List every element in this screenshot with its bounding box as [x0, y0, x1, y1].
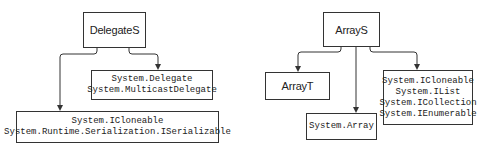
arrays-root-box: ArrayS — [323, 12, 380, 47]
type-label: System.Runtime.Serialization.ISerializab… — [4, 127, 231, 138]
type-label: System.ICloneable — [72, 116, 164, 127]
diagram-canvas: DelegateS System.Delegate System.Multica… — [0, 0, 495, 150]
arrayt-box: ArrayT — [265, 72, 330, 100]
arrow-arrays-to-arrayt — [298, 47, 341, 67]
delegates-root-box: DelegateS — [83, 12, 146, 48]
type-label: System.ICollection — [379, 98, 476, 109]
type-label: System.Array — [309, 121, 374, 132]
arrayt-label: ArrayT — [282, 80, 314, 92]
arrow-arrays-to-interfaces — [370, 47, 417, 65]
array-interfaces-box: System.ICloneable System.IList System.IC… — [383, 70, 473, 125]
arrays-root-label: ArrayS — [335, 24, 367, 36]
type-label: System.ICloneable — [382, 76, 474, 87]
type-label: System.MulticastDelegate — [87, 85, 217, 96]
type-label: System.IEnumerable — [379, 109, 476, 120]
type-label: System.IList — [396, 87, 461, 98]
type-label: System.Delegate — [111, 74, 192, 85]
delegates-root-label: DelegateS — [90, 24, 140, 36]
system-array-box: System.Array — [306, 113, 377, 140]
delegate-base-types-box: System.Delegate System.MulticastDelegate — [91, 70, 213, 100]
arrow-delegates-to-delegate — [129, 48, 158, 65]
delegate-interfaces-box: System.ICloneable System.Runtime.Seriali… — [16, 111, 219, 143]
